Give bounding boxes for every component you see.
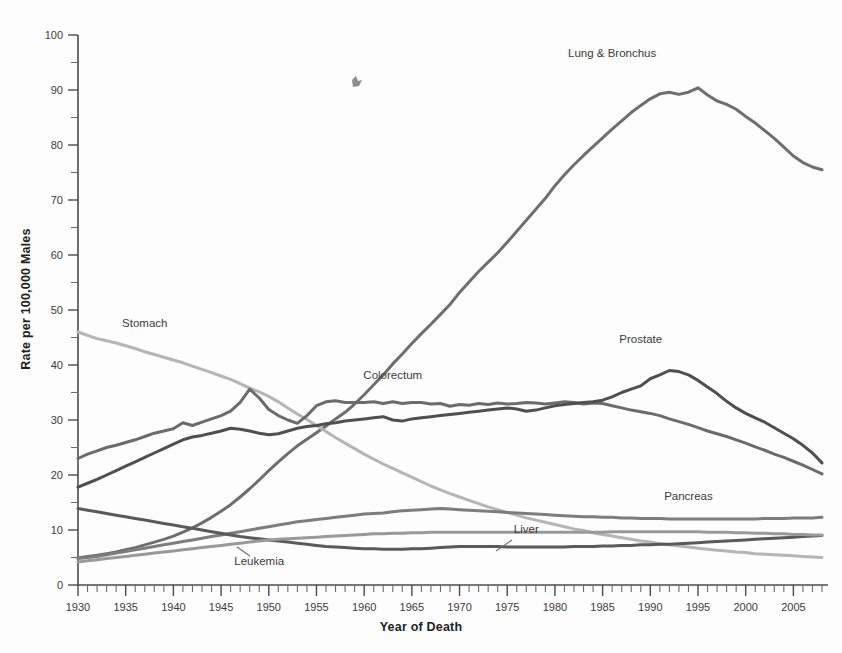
- x-tick-label: 1995: [686, 601, 710, 613]
- series-label-colorectum: Colorectum: [363, 369, 422, 381]
- series-label-lung-bronchus: Lung & Bronchus: [568, 47, 656, 59]
- x-tick-label: 2005: [781, 601, 805, 613]
- y-tick-labels: 0102030405060708090100: [45, 29, 63, 591]
- y-tick-label: 10: [51, 524, 63, 536]
- x-tick-label: 1940: [161, 601, 185, 613]
- series-label-pancreas: Pancreas: [664, 490, 713, 502]
- x-tick-label: 1945: [209, 601, 233, 613]
- y-tick-label: 40: [51, 359, 63, 371]
- series-label-prostate: Prostate: [619, 333, 662, 345]
- series-labels: Lung & BronchusStomachColorectumProstate…: [122, 47, 713, 567]
- chart-figure: Rate per 100,000 Males Year of Death 010…: [0, 0, 842, 653]
- y-tick-label: 90: [51, 84, 63, 96]
- x-tick-label: 1930: [66, 601, 90, 613]
- series-label-leukemia: Leukemia: [234, 555, 284, 567]
- series-line-colorectum: [78, 389, 822, 474]
- x-tick-label: 1970: [447, 601, 471, 613]
- y-tick-label: 100: [45, 29, 63, 41]
- x-tick-label: 1955: [304, 601, 328, 613]
- y-tick-label: 60: [51, 249, 63, 261]
- axes-group: [68, 35, 828, 596]
- x-tick-label: 1975: [495, 601, 519, 613]
- y-tick-label: 80: [51, 139, 63, 151]
- y-tick-label: 30: [51, 414, 63, 426]
- x-tick-labels: 1930193519401945195019551960196519701975…: [66, 601, 806, 613]
- y-tick-label: 0: [57, 579, 63, 591]
- x-tick-label: 1980: [543, 601, 567, 613]
- x-tick-label: 2000: [733, 601, 757, 613]
- scan-artifacts: [352, 76, 362, 87]
- series-line-liver: [78, 509, 822, 550]
- line-chart-plot: 0102030405060708090100 19301935194019451…: [0, 0, 842, 653]
- series-label-liver: Liver: [514, 523, 539, 535]
- x-tick-label: 1990: [638, 601, 662, 613]
- x-tick-label: 1950: [257, 601, 281, 613]
- series-line-stomach: [78, 332, 822, 558]
- x-tick-label: 1960: [352, 601, 376, 613]
- series-line-prostate: [78, 371, 822, 488]
- x-tick-label: 1985: [590, 601, 614, 613]
- series-line-lung-bronchus: [78, 88, 822, 558]
- speck-mark: [352, 76, 362, 87]
- y-tick-label: 50: [51, 304, 63, 316]
- y-tick-label: 20: [51, 469, 63, 481]
- x-tick-label: 1965: [400, 601, 424, 613]
- x-tick-label: 1935: [113, 601, 137, 613]
- y-tick-label: 70: [51, 194, 63, 206]
- series-label-stomach: Stomach: [122, 317, 167, 329]
